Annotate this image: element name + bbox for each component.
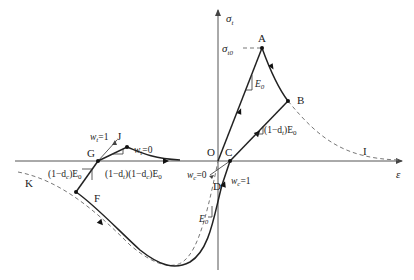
point-B-label: B (297, 94, 304, 106)
slope-label-E0-upper: E0 (254, 79, 265, 91)
point-J-label: J (117, 130, 122, 142)
point-F-label: F (94, 192, 100, 204)
x-axis-label: ε (396, 168, 401, 180)
weight-label-wc0: wc=0 (187, 170, 207, 182)
point-I-label: I (363, 145, 367, 157)
softening-path-AB (262, 48, 288, 101)
slope-triangle-E0-lower (208, 206, 212, 217)
y-axis-label: σt (226, 12, 234, 27)
point-D-label: D (213, 180, 221, 192)
diagram-svg: σt ε O σt0 A B C D F G I J K E (0, 0, 414, 280)
slope-label-tension-unload: (1−dt)E0 (264, 125, 297, 137)
peak-stress-label: σt0 (222, 42, 233, 57)
point-G-label: G (87, 147, 95, 159)
slope-label-combined: (1−dt)(1−dc)E0 (105, 169, 162, 181)
stress-strain-diagram: σt ε O σt0 A B C D F G I J K E (0, 0, 414, 280)
point-A-label: A (258, 32, 266, 44)
tension-loading-path (218, 48, 262, 161)
weight-label-wt1: wt=1 (90, 132, 109, 144)
origin-label: O (207, 146, 215, 158)
slope-label-compression-unload: (1−dc)E0 (48, 169, 82, 181)
point-C-label: C (225, 146, 232, 158)
point-K-label: K (25, 177, 33, 189)
tension-softening-envelope (288, 101, 398, 160)
weight-label-wc1: wc=1 (231, 176, 251, 188)
